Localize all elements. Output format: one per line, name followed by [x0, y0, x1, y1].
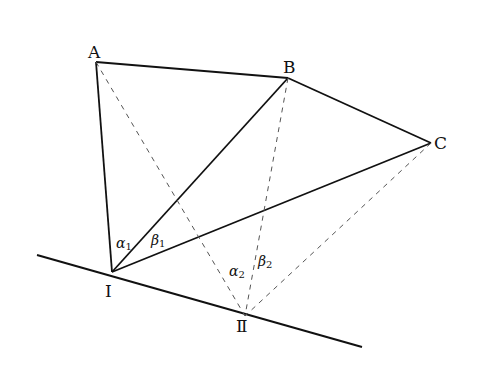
- dashed-c-ii: [245, 143, 431, 316]
- dashed-b-ii: [245, 78, 288, 316]
- segment-ab: [96, 62, 288, 78]
- diagram-lines: [0, 0, 480, 369]
- segment-ai: [96, 62, 112, 272]
- baseline: [37, 255, 362, 347]
- angle-label-beta1: β1: [151, 233, 165, 249]
- angle-label-beta2: β2: [258, 254, 272, 270]
- geometry-diagram: A B C I Ⅱ α1 β1 α2 β2: [0, 0, 480, 369]
- point-label-ii: Ⅱ: [236, 318, 248, 335]
- point-label-b: B: [283, 59, 296, 76]
- segment-ci: [112, 143, 431, 272]
- angle-label-alpha1: α1: [116, 236, 132, 252]
- point-label-c: C: [434, 135, 447, 152]
- angle-label-alpha2: α2: [229, 264, 245, 280]
- point-label-i: I: [105, 283, 112, 300]
- point-label-a: A: [88, 44, 100, 61]
- segment-bi: [112, 78, 288, 272]
- segment-bc: [288, 78, 431, 143]
